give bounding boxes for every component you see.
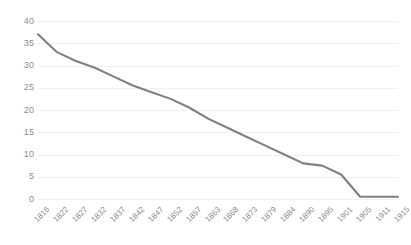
plot-area [38, 21, 398, 199]
y-tick-label: 5 [29, 172, 34, 181]
y-tick-label: 35 [24, 39, 34, 48]
y-tick-label: 40 [24, 17, 34, 26]
y-tick-label: 10 [24, 150, 34, 159]
y-tick-label: 15 [24, 128, 34, 137]
x-axis-tick-labels: 1816182218271832183718421847185218571863… [0, 199, 405, 245]
y-tick-label: 20 [24, 106, 34, 115]
y-tick-label: 30 [24, 61, 34, 70]
y-tick-label: 25 [24, 83, 34, 92]
series-line-1 [38, 21, 398, 199]
